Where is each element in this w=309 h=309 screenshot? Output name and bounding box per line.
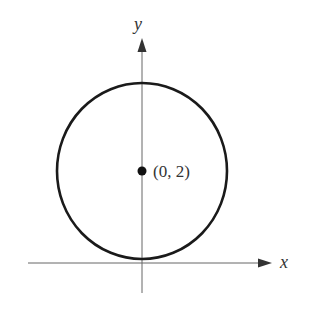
circle-diagram: y x (0, 2) <box>0 0 309 309</box>
x-axis-label: x <box>279 252 288 272</box>
diagram-svg: y x (0, 2) <box>0 0 309 309</box>
x-axis-arrow-icon <box>258 259 272 268</box>
center-point-label: (0, 2) <box>153 162 190 181</box>
y-axis-label: y <box>132 14 142 34</box>
y-axis-arrow-icon <box>138 38 147 52</box>
center-point <box>138 167 147 176</box>
